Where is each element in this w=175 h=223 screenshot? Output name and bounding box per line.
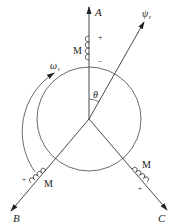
coil-a bbox=[85, 36, 89, 60]
label-b: B bbox=[13, 212, 20, 223]
label-omega-sub: r bbox=[58, 66, 60, 72]
label-a: A bbox=[94, 6, 102, 18]
coil-a-label: M bbox=[73, 45, 82, 56]
axis-c bbox=[89, 119, 167, 210]
label-c: C bbox=[158, 212, 166, 223]
label-flux: ψ bbox=[142, 8, 149, 19]
coil-a-minus: − bbox=[98, 57, 103, 66]
label-theta: θ bbox=[93, 89, 98, 100]
coil-b-label: M bbox=[44, 178, 53, 189]
coil-b-plus: + bbox=[22, 176, 26, 184]
label-omega: ω bbox=[50, 60, 57, 71]
coil-c-label: M bbox=[142, 159, 151, 170]
coil-a-plus: + bbox=[98, 33, 103, 42]
rotation-arc bbox=[22, 73, 54, 172]
coil-c-plus: + bbox=[138, 185, 142, 193]
axis-b bbox=[11, 119, 89, 211]
label-flux-sub: r bbox=[149, 14, 151, 20]
winding-diagram: A B C ψ r θ ω r M + − M + M + bbox=[0, 0, 175, 223]
